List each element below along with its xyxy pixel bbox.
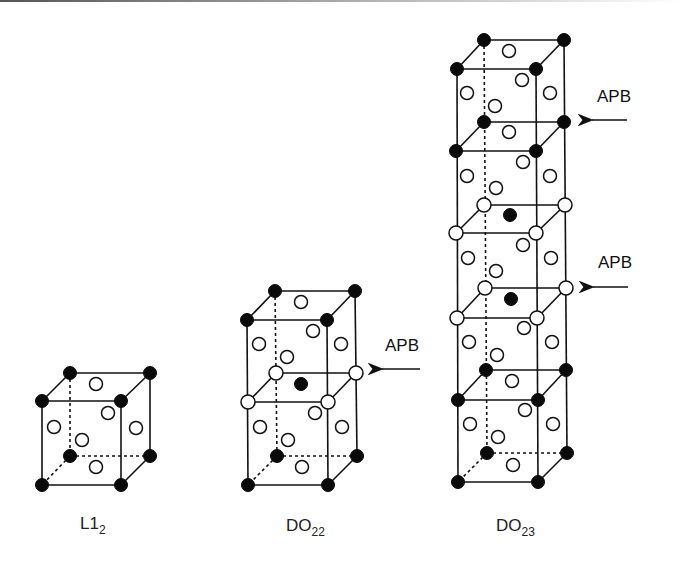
structure-label-l12: L12 [80, 514, 106, 537]
label-sub: 2 [99, 523, 106, 537]
l12-unit-cell [36, 367, 157, 492]
apb-label-do22: APB [385, 336, 419, 356]
do22-unit-cell [241, 285, 364, 492]
label-main: L1 [80, 514, 99, 533]
label-sub: 22 [312, 525, 325, 539]
structure-label-do23: DO23 [496, 516, 535, 539]
label-main: DO [286, 516, 312, 535]
label-main: DO [496, 516, 522, 535]
apb-label-do23-upper: APB [597, 87, 631, 107]
do23-unit-cell [449, 34, 574, 489]
structure-label-do22: DO22 [286, 516, 325, 539]
apb-label-do23-lower: APB [598, 253, 632, 273]
label-sub: 23 [522, 525, 535, 539]
crystal-structures-diagram [0, 0, 680, 566]
